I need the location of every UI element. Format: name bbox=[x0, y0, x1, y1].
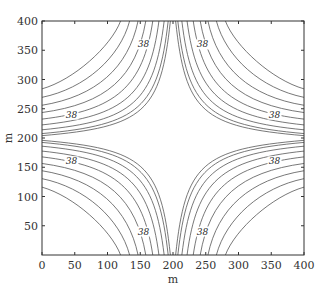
contour-label: 38 bbox=[197, 39, 209, 49]
y-tick-label: 350 bbox=[17, 44, 38, 57]
contour-line bbox=[216, 179, 304, 255]
contour-line bbox=[200, 21, 304, 113]
x-tick-label: 0 bbox=[39, 259, 46, 272]
contour-line bbox=[42, 163, 146, 255]
x-tick-label: 150 bbox=[130, 259, 151, 272]
y-tick-label: 100 bbox=[17, 191, 38, 204]
contour-line bbox=[182, 146, 304, 255]
x-axis-ticks: 050100150200250300350400 bbox=[39, 21, 315, 272]
contour-label: 38 bbox=[138, 39, 150, 49]
y-tick-label: 150 bbox=[17, 161, 38, 174]
contour-line bbox=[42, 21, 164, 130]
contour-label: 38 bbox=[269, 110, 281, 120]
x-axis-label: m bbox=[168, 273, 179, 286]
x-tick-label: 100 bbox=[97, 259, 118, 272]
contour-line bbox=[208, 21, 304, 105]
x-tick-label: 50 bbox=[68, 259, 82, 272]
y-tick-label: 50 bbox=[24, 220, 38, 233]
contour-line bbox=[42, 21, 138, 105]
x-tick-label: 350 bbox=[261, 259, 282, 272]
y-tick-label: 200 bbox=[17, 132, 38, 145]
contour-line bbox=[42, 171, 138, 255]
y-tick-label: 300 bbox=[17, 74, 38, 87]
contour-line bbox=[208, 171, 304, 255]
contour-line bbox=[225, 21, 304, 89]
x-tick-label: 250 bbox=[195, 259, 216, 272]
contour-chart: 3838383838383838 05010015020025030035040… bbox=[0, 0, 325, 289]
contour-label: 38 bbox=[66, 156, 78, 166]
contour-labels: 3838383838383838 bbox=[64, 39, 281, 236]
contour-line bbox=[42, 179, 130, 255]
contour-line bbox=[216, 21, 304, 97]
contour-line bbox=[182, 21, 304, 130]
contour-label: 38 bbox=[269, 156, 281, 166]
contour-label: 38 bbox=[66, 110, 78, 120]
contour-line bbox=[200, 163, 304, 255]
x-tick-label: 200 bbox=[163, 259, 184, 272]
contour-line bbox=[42, 146, 164, 255]
contour-line bbox=[42, 21, 130, 97]
contour-line bbox=[42, 21, 121, 89]
y-axis-label: m bbox=[2, 132, 15, 143]
x-tick-label: 400 bbox=[294, 259, 315, 272]
x-tick-label: 300 bbox=[228, 259, 249, 272]
contour-line bbox=[42, 21, 146, 113]
contour-line bbox=[42, 187, 121, 255]
contour-label: 38 bbox=[138, 227, 150, 237]
contour-line bbox=[225, 187, 304, 255]
contour-lines bbox=[42, 21, 304, 255]
plot-frame bbox=[42, 21, 304, 255]
y-tick-label: 400 bbox=[17, 15, 38, 28]
y-tick-label: 250 bbox=[17, 103, 38, 116]
contour-label: 38 bbox=[197, 227, 209, 237]
